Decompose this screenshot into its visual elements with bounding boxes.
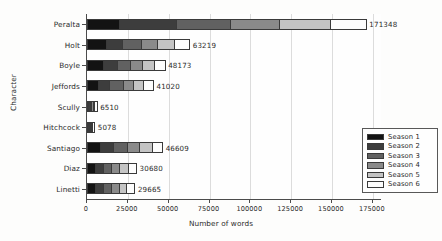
y-tick-mark xyxy=(82,45,86,46)
legend-item[interactable]: Season 5 xyxy=(367,170,433,180)
bar-segment-season-3[interactable] xyxy=(177,20,231,29)
bar-value-label: 46609 xyxy=(166,144,189,153)
bar-segment-season-2[interactable] xyxy=(99,81,111,90)
legend-item[interactable]: Season 2 xyxy=(367,142,433,152)
bar-row xyxy=(87,55,381,76)
x-tick-label: 175000 xyxy=(359,205,385,213)
legend-label: Season 1 xyxy=(388,133,420,141)
x-tick-label: 100000 xyxy=(236,205,262,213)
bar-segment-season-3[interactable] xyxy=(118,61,131,70)
stacked-bar[interactable] xyxy=(87,39,190,50)
legend-label: Season 5 xyxy=(388,171,420,179)
legend-item[interactable]: Season 1 xyxy=(367,132,433,142)
bar-segment-season-2[interactable] xyxy=(96,164,105,173)
stacked-bar[interactable] xyxy=(87,19,367,30)
bar-segment-season-3[interactable] xyxy=(104,164,112,173)
x-tick-label: 0 xyxy=(84,205,88,213)
stacked-bar[interactable] xyxy=(87,142,163,153)
bar-value-label: 48173 xyxy=(168,61,191,70)
bar-segment-season-2[interactable] xyxy=(96,184,104,193)
legend-swatch-season-5 xyxy=(367,172,384,179)
bar-segment-season-1[interactable] xyxy=(88,20,120,29)
legend-swatch-season-3 xyxy=(367,153,384,160)
legend-swatch-season-4 xyxy=(367,162,384,169)
y-tick-label-santiago: Santiago xyxy=(0,144,80,153)
bar-segment-season-5[interactable] xyxy=(134,81,144,90)
x-axis-label: Number of words xyxy=(0,219,442,228)
bar-row xyxy=(87,35,381,56)
bar-row xyxy=(87,137,381,158)
x-tick-mark xyxy=(209,199,210,203)
x-tick-mark xyxy=(249,199,250,203)
bar-segment-season-2[interactable] xyxy=(104,61,118,70)
bar-segment-season-1[interactable] xyxy=(88,184,96,193)
bar-segment-season-1[interactable] xyxy=(88,143,101,152)
bar-value-label: 29665 xyxy=(138,185,161,194)
bar-segment-season-2[interactable] xyxy=(107,40,124,49)
bar-value-label: 6510 xyxy=(100,103,119,112)
bar-segment-season-5[interactable] xyxy=(158,40,174,49)
bar-segment-season-4[interactable] xyxy=(128,143,141,152)
stacked-bar[interactable] xyxy=(87,183,135,194)
stacked-bar[interactable] xyxy=(87,80,154,91)
bar-chart: Character PeraltaHoltBoyleJeffordsScully… xyxy=(0,0,442,241)
bar-segment-season-6[interactable] xyxy=(129,164,136,173)
stacked-bar[interactable] xyxy=(87,122,95,133)
bar-value-label: 5078 xyxy=(98,123,117,132)
stacked-bar[interactable] xyxy=(87,101,98,112)
bar-segment-season-6[interactable] xyxy=(127,184,134,193)
bar-segment-season-4[interactable] xyxy=(231,20,280,29)
plot-area xyxy=(86,14,381,200)
bar-segment-season-6[interactable] xyxy=(175,40,189,49)
legend-label: Season 3 xyxy=(388,152,420,160)
bar-segment-season-4[interactable] xyxy=(131,61,143,70)
legend-label: Season 6 xyxy=(388,180,420,188)
y-tick-label-scully: Scully xyxy=(0,103,80,112)
legend-item[interactable]: Season 4 xyxy=(367,161,433,171)
y-tick-mark xyxy=(82,189,86,190)
x-tick-mark xyxy=(86,199,87,203)
bar-segment-season-1[interactable] xyxy=(88,40,107,49)
y-tick-label-linetti: Linetti xyxy=(0,185,80,194)
stacked-bar[interactable] xyxy=(87,60,166,71)
bar-segment-season-3[interactable] xyxy=(123,40,142,49)
bar-segment-season-1[interactable] xyxy=(88,81,99,90)
bar-segment-season-4[interactable] xyxy=(124,81,134,90)
x-tick-label: 125000 xyxy=(277,205,303,213)
bar-segment-season-4[interactable] xyxy=(142,40,158,49)
bar-segment-season-5[interactable] xyxy=(120,184,128,193)
bar-segment-season-5[interactable] xyxy=(120,164,128,173)
y-tick-mark xyxy=(82,24,86,25)
bar-segment-season-2[interactable] xyxy=(120,20,178,29)
bar-segment-season-6[interactable] xyxy=(153,143,162,152)
y-tick-mark xyxy=(82,107,86,108)
bar-value-label: 63219 xyxy=(193,41,216,50)
legend-label: Season 2 xyxy=(388,142,420,150)
bar-segment-season-6[interactable] xyxy=(95,102,96,111)
bar-segment-season-5[interactable] xyxy=(143,61,155,70)
bar-segment-season-3[interactable] xyxy=(104,184,112,193)
bar-value-label: 41020 xyxy=(156,82,179,91)
bar-segment-season-4[interactable] xyxy=(112,164,120,173)
bar-segment-season-5[interactable] xyxy=(140,143,153,152)
stacked-bar[interactable] xyxy=(87,163,137,174)
legend-item[interactable]: Season 6 xyxy=(367,180,433,190)
legend-swatch-season-2 xyxy=(367,143,384,150)
legend-item[interactable]: Season 3 xyxy=(367,151,433,161)
y-tick-mark xyxy=(82,65,86,66)
y-tick-label-hitchcock: Hitchcock xyxy=(0,123,80,132)
bar-segment-season-5[interactable] xyxy=(280,20,330,29)
bar-segment-season-6[interactable] xyxy=(331,20,366,29)
bar-segment-season-6[interactable] xyxy=(155,61,165,70)
bar-segment-season-3[interactable] xyxy=(114,143,128,152)
bar-segment-season-6[interactable] xyxy=(144,81,153,90)
bar-segment-season-1[interactable] xyxy=(88,61,104,70)
bar-row xyxy=(87,76,381,97)
y-tick-label-peralta: Peralta xyxy=(0,20,80,29)
bar-segment-season-1[interactable] xyxy=(88,164,96,173)
x-tick-mark xyxy=(127,199,128,203)
bar-segment-season-4[interactable] xyxy=(112,184,120,193)
bar-segment-season-3[interactable] xyxy=(110,81,124,90)
bar-segment-season-2[interactable] xyxy=(101,143,114,152)
bar-segment-season-6[interactable] xyxy=(93,123,94,132)
